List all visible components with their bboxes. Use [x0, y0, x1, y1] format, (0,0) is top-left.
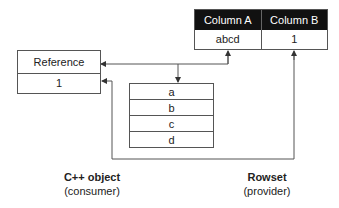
- reference-value: 1: [18, 73, 100, 93]
- list-item: d: [130, 132, 213, 148]
- column-b-cell: 1: [261, 30, 328, 49]
- provider-subtitle: (provider): [207, 184, 327, 198]
- rowset-table: Column A Column B abcd 1: [194, 9, 328, 50]
- provider-title: Rowset: [207, 170, 327, 184]
- column-a-cell: abcd: [195, 30, 261, 49]
- table-row: abcd 1: [195, 30, 327, 49]
- consumer-subtitle: (consumer): [32, 184, 152, 198]
- table-header: Column A Column B: [195, 10, 327, 30]
- list-item: c: [130, 116, 213, 132]
- column-a-header: Column A: [195, 10, 261, 30]
- provider-label: Rowset (provider): [207, 170, 327, 198]
- reference-box: Reference 1: [17, 50, 101, 94]
- consumer-label: C++ object (consumer): [32, 170, 152, 198]
- string-buffer-list: a b c d: [129, 83, 214, 148]
- column-b-header: Column B: [261, 10, 328, 30]
- consumer-title: C++ object: [32, 170, 152, 184]
- arrow-columnA-to-reference: [101, 52, 228, 64]
- list-item: b: [130, 100, 213, 116]
- reference-title: Reference: [18, 51, 100, 74]
- list-item: a: [130, 84, 213, 100]
